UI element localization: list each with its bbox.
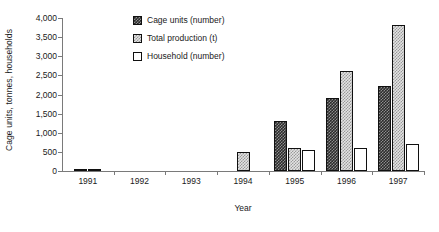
x-axis-tick-mark xyxy=(269,171,270,175)
y-axis-tick-label: 2,000 xyxy=(36,90,57,99)
legend-entry: Cage units (number) xyxy=(133,13,224,27)
bar xyxy=(237,152,250,171)
x-axis-tick-label: 1997 xyxy=(389,176,408,186)
y-axis-tick-mark xyxy=(58,56,62,57)
bar-group xyxy=(74,18,101,171)
x-axis-tick-mark xyxy=(165,171,166,175)
x-axis-tick-mark xyxy=(321,171,322,175)
legend-entry: Household (number) xyxy=(133,49,224,63)
y-axis-tick-label: 500 xyxy=(43,147,57,156)
y-axis-tick-mark xyxy=(58,133,62,134)
x-axis-tick-mark xyxy=(114,171,115,175)
chart-legend: Cage units (number)Total production (t)H… xyxy=(133,13,224,67)
bar xyxy=(274,121,287,171)
bar-group xyxy=(274,18,315,171)
x-axis-tick-label: 1996 xyxy=(337,176,356,186)
x-axis-tick-labels: 1991199219931994199519961997 xyxy=(62,176,424,190)
bar xyxy=(406,144,419,171)
x-axis-tick-label: 1993 xyxy=(182,176,201,186)
plot-area xyxy=(62,18,424,171)
legend-label: Total production (t) xyxy=(147,33,217,43)
x-axis-tick-mark xyxy=(372,171,373,175)
bar xyxy=(88,169,101,171)
bar xyxy=(74,169,87,171)
bar xyxy=(340,71,353,171)
legend-swatch xyxy=(133,34,142,43)
x-axis-tick-mark xyxy=(424,171,425,175)
y-axis-tick-mark xyxy=(58,18,62,19)
y-axis-tick-label: 2,500 xyxy=(36,71,57,80)
bar xyxy=(302,150,315,171)
bar xyxy=(392,25,405,171)
bar-group xyxy=(378,18,419,171)
y-axis-tick-label: 3,500 xyxy=(36,33,57,42)
bar-group xyxy=(237,18,250,171)
y-axis-tick-mark xyxy=(58,114,62,115)
y-axis-tick-mark xyxy=(58,75,62,76)
bar-group xyxy=(326,18,367,171)
bar xyxy=(288,148,301,171)
bar xyxy=(326,98,339,171)
y-axis-tick-mark xyxy=(58,152,62,153)
x-axis-tick-mark xyxy=(217,171,218,175)
y-axis-tick-label: 1,500 xyxy=(36,109,57,118)
bar xyxy=(354,148,367,171)
y-axis-tick-label: 1,000 xyxy=(36,128,57,137)
x-axis-tick-label: 1995 xyxy=(285,176,304,186)
legend-label: Household (number) xyxy=(147,51,224,61)
y-axis-title: Cage units, tonnes, households xyxy=(0,0,18,180)
y-axis-tick-labels: 05001,0001,5002,0002,5003,0003,5004,000 xyxy=(18,12,60,172)
x-axis-tick-label: 1994 xyxy=(234,176,253,186)
y-axis-tick-label: 4,000 xyxy=(36,14,57,23)
bar-chart: Cage units, tonnes, households 05001,000… xyxy=(0,0,439,232)
legend-label: Cage units (number) xyxy=(147,15,224,25)
legend-entry: Total production (t) xyxy=(133,31,224,45)
y-axis-title-text: Cage units, tonnes, households xyxy=(4,29,14,151)
y-axis-tick-mark xyxy=(58,37,62,38)
y-axis-tick-label: 0 xyxy=(52,167,57,176)
x-axis-tick-label: 1991 xyxy=(78,176,97,186)
bar xyxy=(378,86,391,171)
x-axis-title: Year xyxy=(62,203,424,213)
x-axis-line xyxy=(62,171,424,172)
y-axis-tick-mark xyxy=(58,171,62,172)
y-axis-line xyxy=(62,18,63,171)
legend-swatch xyxy=(133,16,142,25)
y-axis-tick-mark xyxy=(58,95,62,96)
x-axis-tick-label: 1992 xyxy=(130,176,149,186)
legend-swatch xyxy=(133,52,142,61)
y-axis-tick-label: 3,000 xyxy=(36,52,57,61)
